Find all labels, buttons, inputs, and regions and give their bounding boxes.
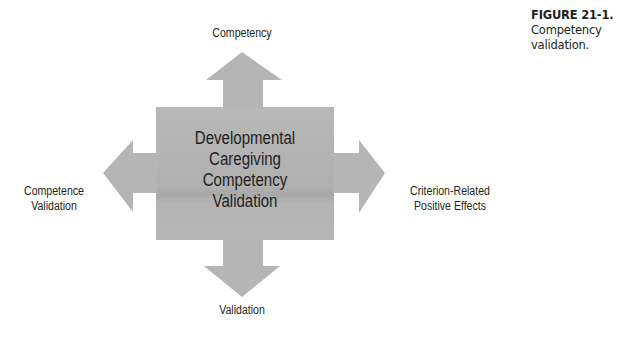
left-arrow-label: Competence Validation	[14, 184, 95, 214]
figure-caption: FIGURE 21-1. Competency validation.	[531, 8, 631, 53]
center-line-3: Competency	[168, 170, 321, 191]
center-label: Developmental Caregiving Competency Vali…	[168, 128, 321, 212]
right-arrow-label: Criterion-Related Positive Effects	[395, 184, 504, 214]
right-label-line-1: Criterion-Related	[395, 184, 504, 199]
left-label-line-2: Validation	[14, 199, 95, 214]
right-label-line-2: Positive Effects	[395, 199, 504, 214]
arrow-right-icon	[333, 140, 385, 213]
caption-text-1: Competency	[531, 23, 602, 37]
bottom-arrow-label: Validation	[205, 303, 279, 318]
left-label-line-1: Competence	[14, 184, 95, 199]
center-line-2: Caregiving	[168, 149, 321, 170]
center-line-4: Validation	[168, 191, 321, 212]
arrow-left-icon	[103, 140, 157, 212]
center-line-1: Developmental	[168, 128, 321, 149]
top-arrow-label: Competency	[196, 26, 288, 41]
caption-text-2: validation.	[531, 38, 589, 52]
arrow-down-icon	[204, 239, 280, 297]
figure-number: FIGURE 21-1.	[531, 8, 613, 22]
arrow-up-icon	[206, 52, 282, 108]
